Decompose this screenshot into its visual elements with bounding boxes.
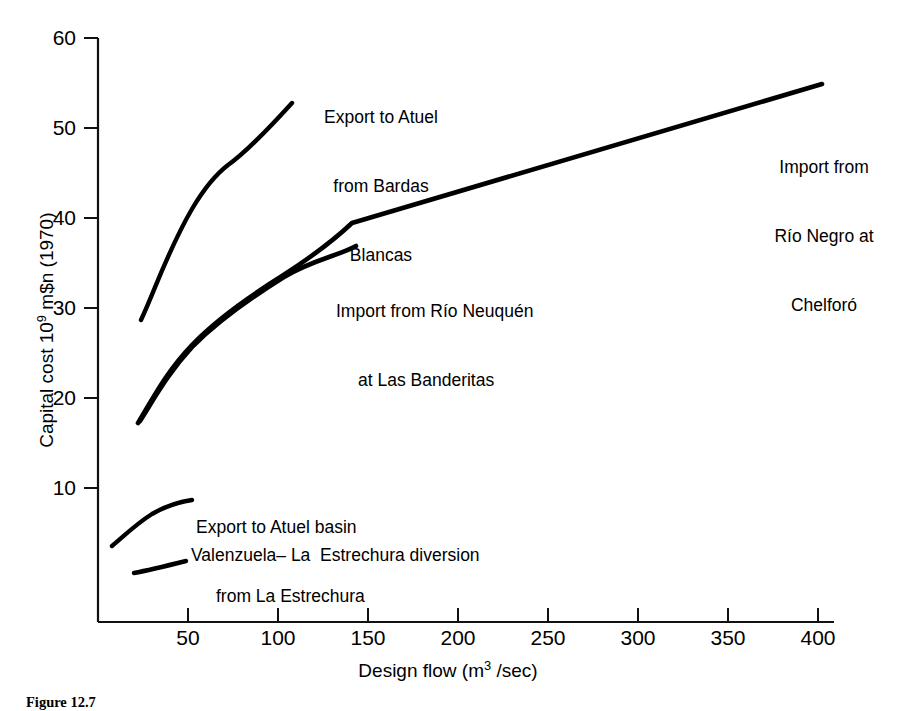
x-axis-label-prefix: Design flow (m: [358, 660, 484, 681]
annotation-estrechura-line1: Export to Atuel basin: [196, 516, 365, 539]
y-axis-label: Capital cost 109 m$n (1970): [34, 180, 58, 480]
annotation-rio-negro-chelforo: Import from Río Negro at Chelforó: [750, 110, 898, 363]
figure-container: 60 50 40 30 20 10 50 100 150 200 250 300…: [0, 0, 898, 711]
x-axis-label: Design flow (m3 /sec): [288, 658, 608, 682]
x-tick-label-200: 200: [423, 626, 493, 650]
x-tick-label-300: 300: [603, 626, 673, 650]
y-axis-label-prefix: Capital cost 10: [36, 322, 57, 448]
x-tick-label-400: 400: [783, 626, 853, 650]
annotation-bardas-line2: from Bardas: [288, 175, 474, 198]
annotation-valenzuela-diversion: Valenzuela– La Estrechura diversion: [191, 544, 480, 567]
y-axis-label-suffix: m$n (1970): [36, 213, 57, 315]
annotation-chelforo-line1: Import from: [750, 156, 898, 179]
y-tick-label-60: 60: [30, 26, 76, 50]
y-axis-label-exponent: 9: [34, 315, 49, 322]
annotation-estrechura-line2: from La Estrechura: [216, 585, 365, 608]
annotation-chelforo-line3: Chelforó: [750, 294, 898, 317]
annotation-chelforo-line2: Río Negro at: [750, 225, 898, 248]
annotation-neuquen-line1: Import from Río Neuquén: [336, 300, 533, 323]
figure-caption: Figure 12.7: [26, 694, 96, 711]
x-tick-label-350: 350: [693, 626, 763, 650]
x-tick-label-250: 250: [513, 626, 583, 650]
x-axis-label-suffix: /sec): [491, 660, 537, 681]
y-tick-label-50: 50: [30, 116, 76, 140]
annotation-neuquen-line2: at Las Banderitas: [358, 369, 533, 392]
annotation-rio-neuquen-banderitas: Import from Río Neuquén at Las Banderita…: [336, 254, 533, 438]
series-valenzuela-diversion: [134, 561, 186, 573]
y-axis-ticks: [84, 38, 98, 488]
series-la-estrechura: [112, 500, 192, 546]
annotation-bardas-line1: Export to Atuel: [288, 106, 474, 129]
